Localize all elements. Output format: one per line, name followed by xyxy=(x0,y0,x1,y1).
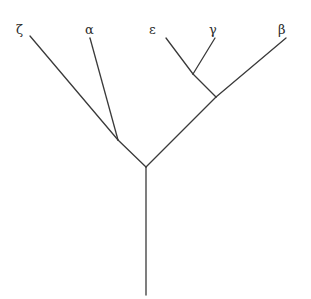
edge-branch-zeta xyxy=(30,36,118,140)
tree-canvas xyxy=(0,0,311,299)
phylogenetic-tree-figure: ζ α ε γ β xyxy=(0,0,311,299)
edge-branch-alpha xyxy=(90,38,118,140)
edge-root-to-left-clade xyxy=(118,140,146,167)
edge-branch-gamma xyxy=(193,38,215,74)
edge-branch-epsilon xyxy=(166,38,193,74)
taxon-label-alpha: α xyxy=(85,23,94,36)
taxon-label-gamma: γ xyxy=(209,23,217,36)
taxon-label-zeta: ζ xyxy=(16,23,23,36)
edge-root-to-right-clade xyxy=(146,97,216,167)
edge-branch-beta xyxy=(216,38,286,97)
tree-edges-group xyxy=(30,36,286,295)
edge-right-clade-internal xyxy=(193,74,216,97)
taxon-label-beta: β xyxy=(278,23,286,36)
taxon-label-epsilon: ε xyxy=(149,23,156,36)
